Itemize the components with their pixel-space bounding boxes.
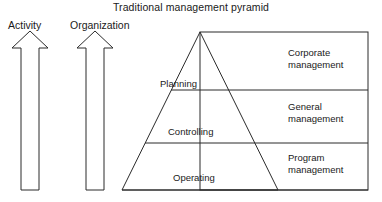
pyramid-tier-label-operating: Operating xyxy=(173,172,215,183)
organization-arrow-icon xyxy=(77,31,113,190)
pyramid-tier-label-planning: Planning xyxy=(160,78,197,89)
activity-arrow-icon xyxy=(12,31,48,190)
management-level-corporate: Corporate management xyxy=(288,47,343,70)
management-pyramid-diagram: Traditional management pyramid Activity … xyxy=(0,0,382,202)
management-level-line1: General xyxy=(288,101,343,113)
management-level-line2: management xyxy=(288,113,343,125)
management-level-line1: Program xyxy=(288,152,343,164)
management-level-program: Program management xyxy=(288,152,343,175)
management-level-line2: management xyxy=(288,164,343,176)
pyramid-tier-label-controlling: Controlling xyxy=(168,126,213,137)
management-level-line1: Corporate xyxy=(288,47,343,59)
management-level-general: General management xyxy=(288,101,343,124)
management-level-line2: management xyxy=(288,59,343,71)
